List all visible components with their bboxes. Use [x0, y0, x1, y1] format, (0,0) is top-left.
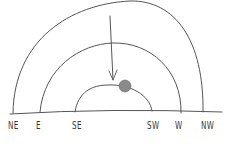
label-ne: NE [8, 120, 19, 131]
sun-path-diagram [0, 0, 226, 150]
horizon-line [10, 110, 222, 114]
label-nw: NW [201, 120, 214, 131]
label-se: SE [72, 120, 82, 131]
equinox-path-arc [40, 43, 181, 113]
label-w: W [175, 120, 182, 131]
winter-path-arc [75, 85, 152, 112]
sun-icon [119, 80, 131, 92]
arrow-shaft [110, 16, 113, 80]
label-e: E [36, 120, 41, 131]
summer-path-arc [13, 1, 203, 113]
label-sw: SW [147, 120, 159, 131]
